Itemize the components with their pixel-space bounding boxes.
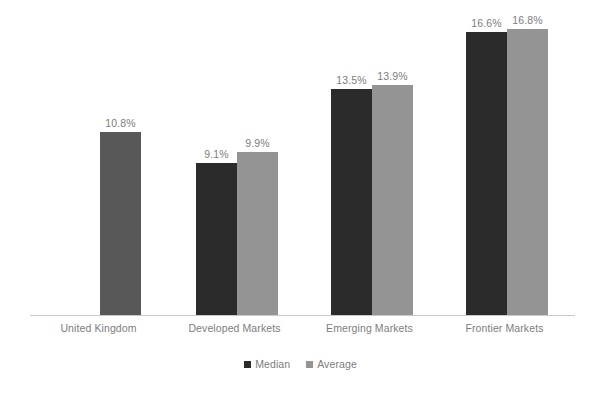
bar-value-label: 10.8% [105,117,135,129]
bar-group-frontier-markets: 16.6% 16.8% [451,8,538,315]
bar-developed-markets-average: 9.9% [237,152,278,315]
bar-frontier-markets-average: 16.8% [507,29,548,315]
bar-emerging-markets-median: 13.5% [331,89,372,315]
bar-value-label: 9.9% [245,137,269,149]
bar-chart: 10.8% 9.1% 9.9% 13.5% 13.9% 16.6% [0,0,601,400]
bar-value-label: 16.8% [512,14,542,26]
bar-frontier-markets-median: 16.6% [466,32,507,315]
bar-united-kingdom-median: 10.8% [100,132,141,315]
legend-item-average[interactable]: Average [306,358,357,370]
bar-value-label: 13.9% [377,70,407,82]
bar-group-united-kingdom: 10.8% [85,8,172,315]
legend-item-median[interactable]: Median [244,358,290,370]
x-axis-label-frontier-markets: Frontier Markets [448,322,561,334]
bar-developed-markets-median: 9.1% [196,163,237,315]
legend-label: Average [317,358,357,370]
x-axis-label-united-kingdom: United Kingdom [42,322,155,334]
legend-swatch-icon [244,361,251,368]
legend-swatch-icon [306,361,313,368]
bar-value-label: 9.1% [204,148,228,160]
x-axis-line [30,315,575,316]
plot-area: 10.8% 9.1% 9.9% 13.5% 13.9% 16.6% [30,8,575,315]
legend-label: Median [255,358,290,370]
bar-group-developed-markets: 9.1% 9.9% [181,8,268,315]
bar-value-label: 13.5% [336,74,366,86]
bar-value-label: 16.6% [471,17,501,29]
x-axis-label-emerging-markets: Emerging Markets [313,322,426,334]
bar-emerging-markets-average: 13.9% [372,85,413,315]
bar-group-emerging-markets: 13.5% 13.9% [316,8,403,315]
chart-legend: Median Average [0,358,601,370]
x-axis-label-developed-markets: Developed Markets [178,322,291,334]
